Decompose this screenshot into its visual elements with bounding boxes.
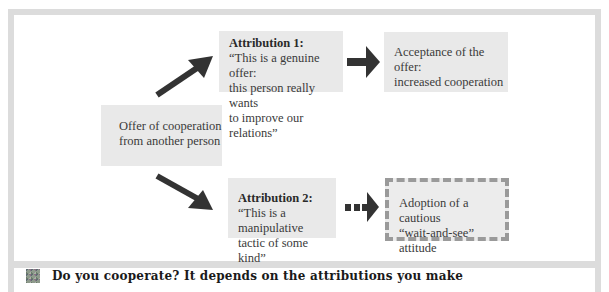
outcome1-box: Acceptance of the offer: increased coope… bbox=[384, 32, 508, 92]
arrow-up-right-icon bbox=[157, 56, 213, 95]
mosaic-icon bbox=[26, 269, 40, 283]
dashed-arrow-right-icon bbox=[345, 192, 379, 222]
offer-line1: Offer of cooperation bbox=[119, 119, 222, 134]
attribution1-box: Attribution 1: “This is a genuine offer:… bbox=[219, 31, 343, 92]
attribution1-line3: to improve our relations” bbox=[229, 111, 343, 141]
offer-box: Offer of cooperation from another person bbox=[101, 105, 222, 166]
attribution2-title: Attribution 2: bbox=[238, 191, 336, 206]
arrow-down-right-icon bbox=[157, 176, 213, 210]
attribution1-title: Attribution 1: bbox=[229, 36, 343, 51]
caption-text: Do you cooperate? It depends on the attr… bbox=[52, 269, 463, 283]
outcome2-line1: Adoption of a cautious bbox=[399, 196, 505, 226]
offer-line2: from another person bbox=[119, 134, 222, 149]
attribution2-line2: tactic of some kind” bbox=[238, 236, 336, 266]
outcome2-box: Adoption of a cautious “wait-and-see” at… bbox=[385, 178, 509, 241]
attribution2-line1: “This is a manipulative bbox=[238, 206, 336, 236]
arrow-right-icon bbox=[347, 46, 380, 78]
figure-caption: Do you cooperate? It depends on the attr… bbox=[26, 269, 463, 283]
outcome1-line1: Acceptance of the offer: bbox=[394, 45, 508, 75]
outcome1-line2: increased cooperation bbox=[394, 75, 508, 90]
attribution2-box: Attribution 2: “This is a manipulative t… bbox=[228, 178, 336, 238]
attribution1-line2: this person really wants bbox=[229, 81, 343, 111]
outcome2-line2: “wait-and-see” attitude bbox=[399, 226, 505, 256]
attribution1-line1: “This is a genuine offer: bbox=[229, 51, 343, 81]
